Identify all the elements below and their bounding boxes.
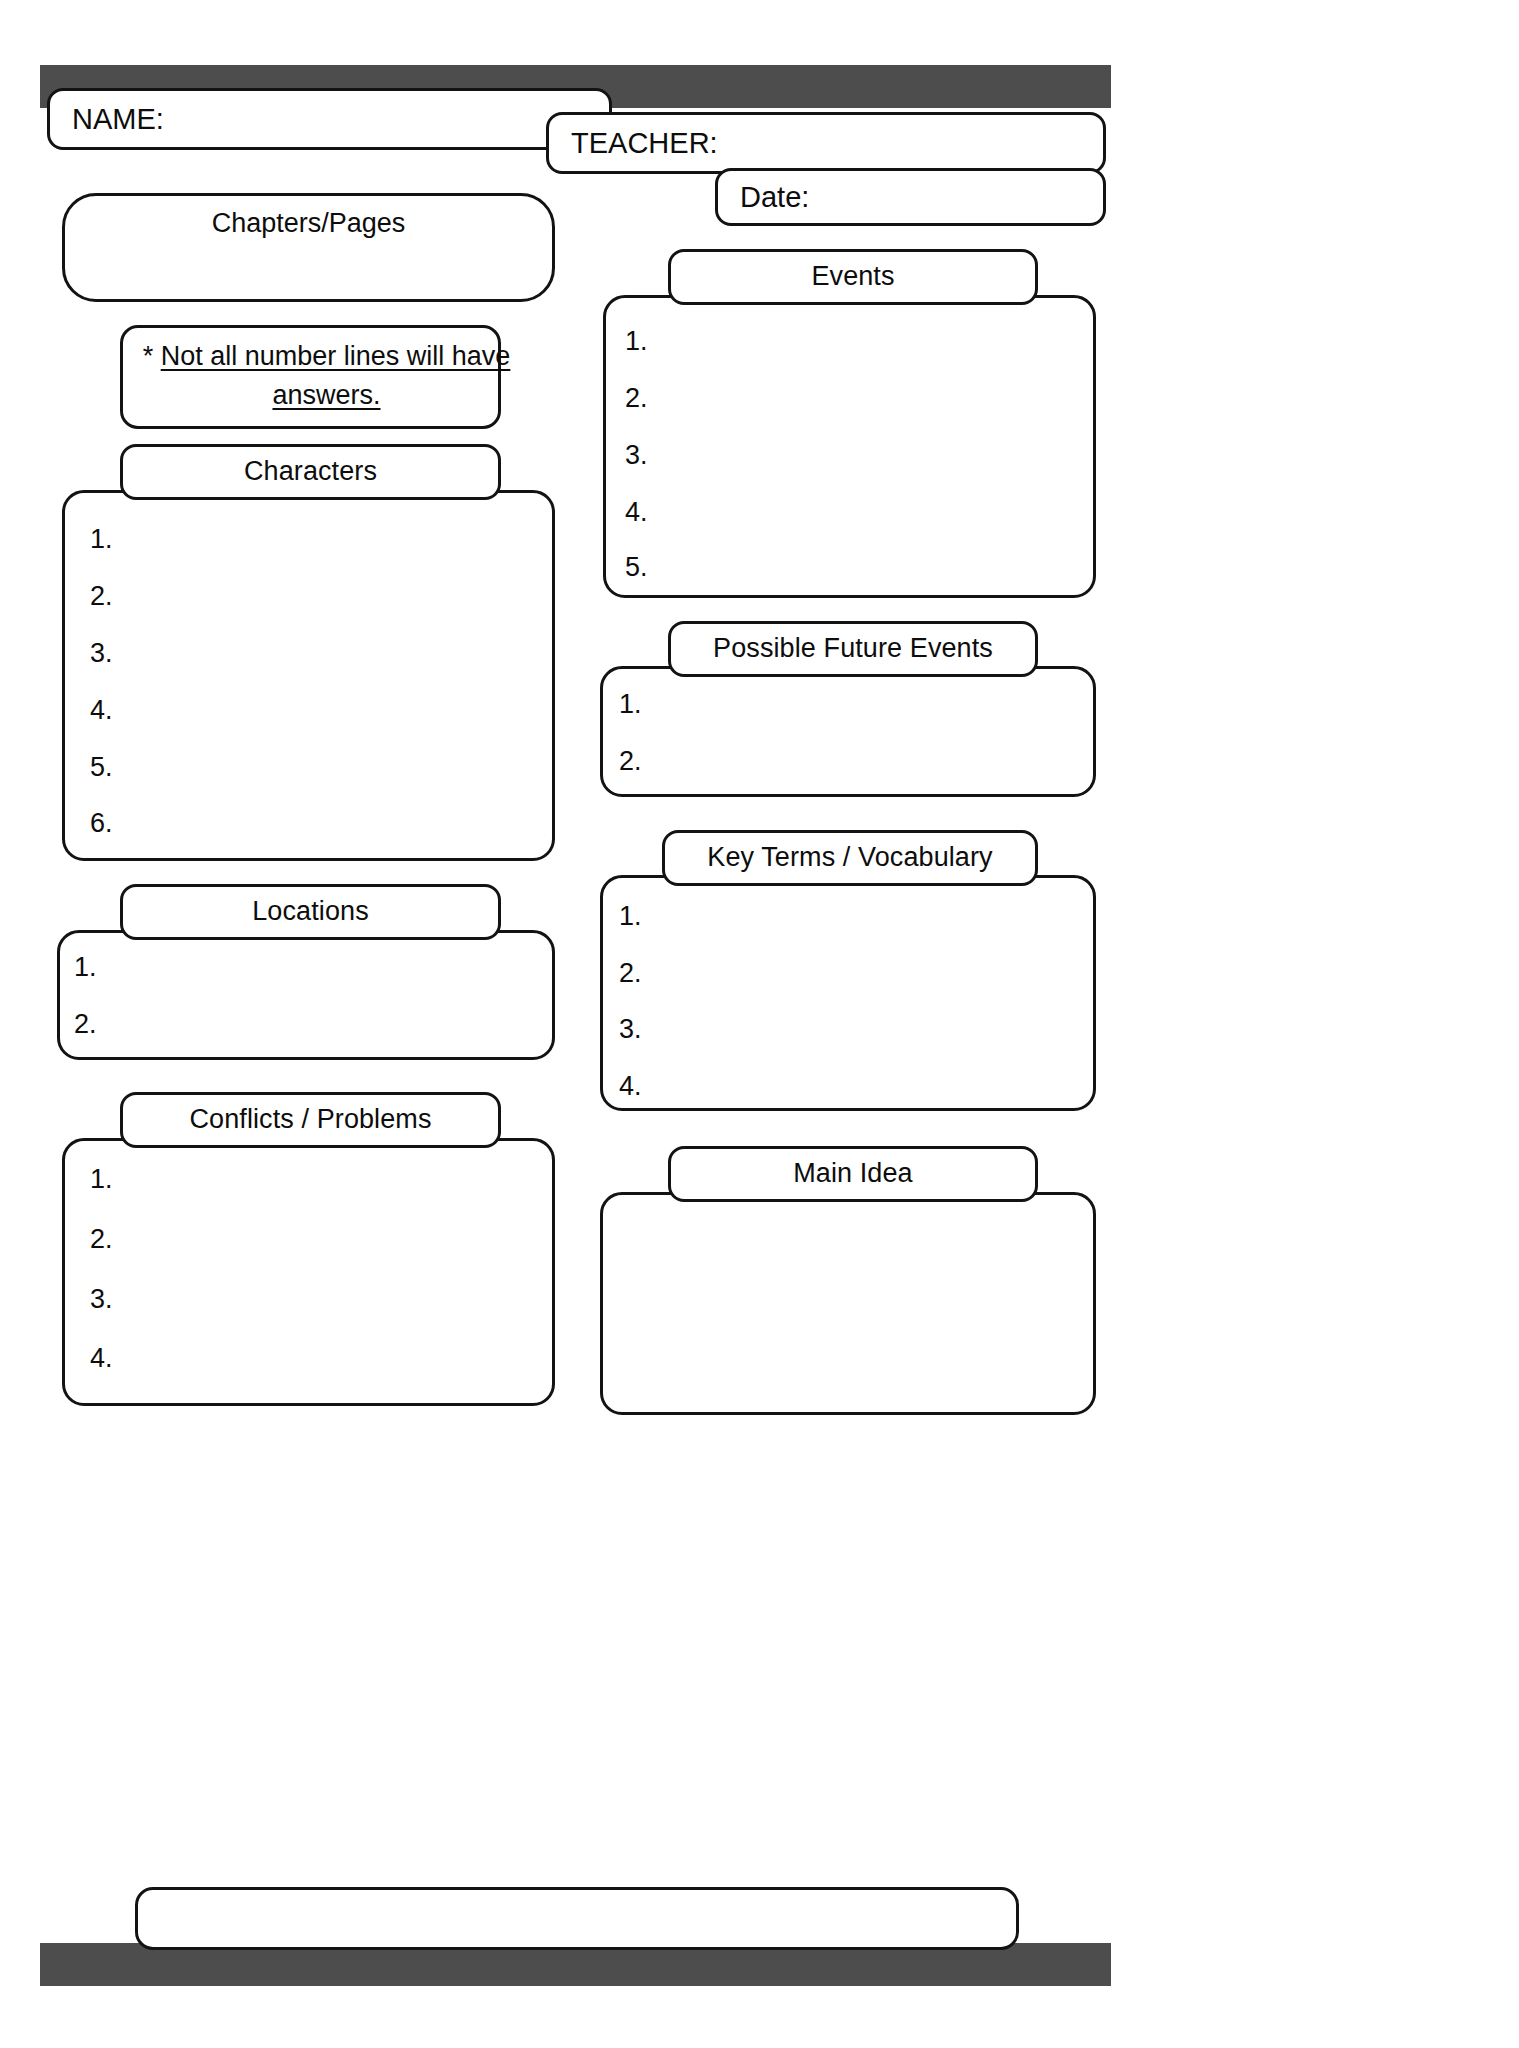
key-terms-vocabulary-header: Key Terms / Vocabulary	[662, 830, 1038, 886]
main-idea-body[interactable]	[600, 1192, 1096, 1415]
events-title: Events	[811, 261, 894, 292]
locations-body[interactable]	[57, 930, 555, 1060]
main-idea-header: Main Idea	[668, 1146, 1038, 1202]
main-idea-title: Main Idea	[793, 1158, 912, 1189]
worksheet-page: NAME: TEACHER: Date: Chapters/Pages * No…	[0, 0, 1519, 2048]
characters-body[interactable]	[62, 490, 555, 861]
note-asterisk: *	[143, 341, 154, 371]
teacher-label: TEACHER:	[549, 127, 718, 160]
note-text-wrap: * Not all number lines will have answers…	[120, 337, 533, 415]
conflicts-problems-header: Conflicts / Problems	[120, 1092, 501, 1148]
key-terms-vocabulary-title: Key Terms / Vocabulary	[707, 842, 992, 873]
characters-header: Characters	[120, 444, 501, 500]
name-field[interactable]: NAME:	[47, 88, 612, 150]
locations-header: Locations	[120, 884, 501, 940]
conflicts-problems-body[interactable]	[62, 1138, 555, 1406]
note-text: Not all number lines will have answers.	[161, 341, 511, 410]
teacher-field[interactable]: TEACHER:	[546, 112, 1106, 174]
footer-notes-box[interactable]	[135, 1887, 1019, 1950]
possible-future-events-body[interactable]	[600, 666, 1096, 797]
key-terms-vocabulary-body[interactable]	[600, 875, 1096, 1111]
events-body[interactable]	[603, 295, 1096, 598]
date-label: Date:	[718, 181, 809, 214]
date-field[interactable]: Date:	[715, 168, 1106, 226]
possible-future-events-title: Possible Future Events	[713, 633, 993, 664]
conflicts-problems-title: Conflicts / Problems	[189, 1104, 431, 1135]
possible-future-events-header: Possible Future Events	[668, 621, 1038, 677]
locations-title: Locations	[252, 896, 368, 927]
chapters-pages-title: Chapters/Pages	[62, 208, 555, 239]
events-header: Events	[668, 249, 1038, 305]
name-label: NAME:	[50, 103, 164, 136]
characters-title: Characters	[244, 456, 377, 487]
